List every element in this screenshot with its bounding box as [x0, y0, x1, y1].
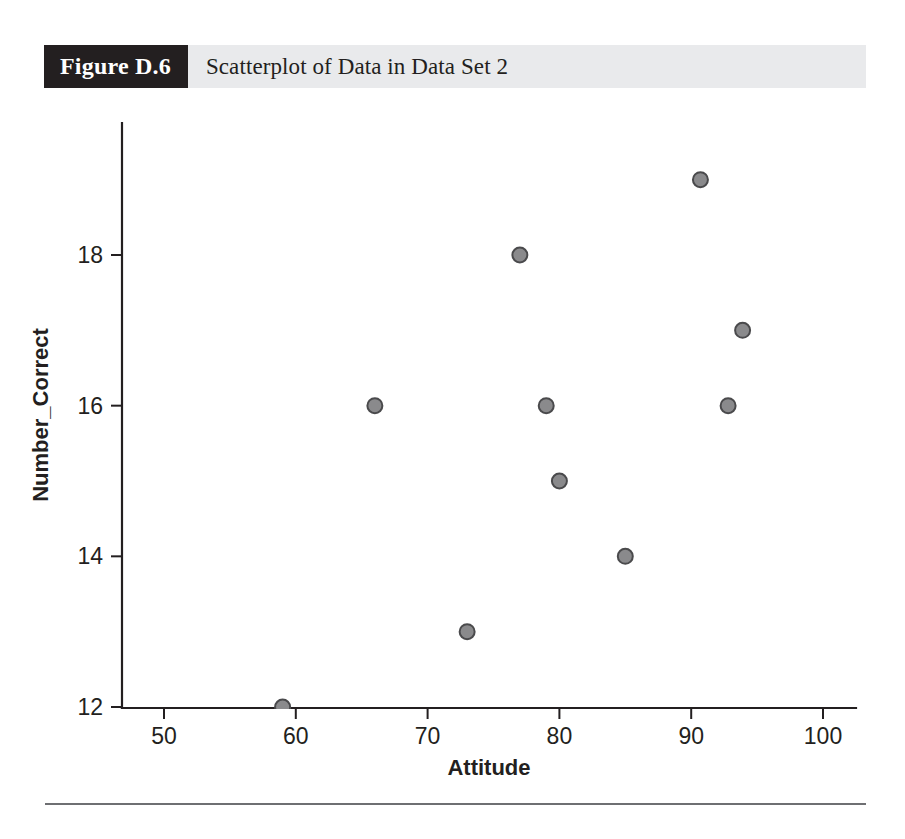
y-tick-label: 16 — [77, 393, 103, 419]
scatter-point — [693, 172, 708, 187]
scatter-point — [552, 474, 567, 489]
x-tick-label: 100 — [804, 723, 842, 749]
y-tick-label: 18 — [77, 242, 103, 268]
footer-divider — [45, 803, 866, 805]
scatterplot-figure: 12141618 5060708090100 Attitude Number_C… — [0, 0, 905, 800]
scatter-point — [618, 549, 633, 564]
x-axis-ticks: 5060708090100 — [151, 708, 842, 749]
scatter-point — [460, 624, 475, 639]
y-axis-ticks: 12141618 — [77, 242, 122, 720]
x-tick-label: 90 — [678, 723, 704, 749]
y-axis-title: Number_Correct — [28, 328, 53, 502]
scatter-point — [275, 700, 290, 715]
y-tick-label: 14 — [77, 543, 103, 569]
x-tick-label: 60 — [283, 723, 309, 749]
x-tick-label: 50 — [151, 723, 177, 749]
x-axis-title: Attitude — [447, 755, 530, 780]
x-tick-label: 70 — [415, 723, 441, 749]
scatter-point — [735, 323, 750, 338]
scatter-point — [539, 398, 554, 413]
scatterplot-canvas: 12141618 5060708090100 Attitude Number_C… — [0, 0, 905, 800]
scatter-point — [512, 248, 527, 263]
scatter-point — [721, 398, 736, 413]
scatter-points-group — [275, 172, 750, 714]
x-tick-label: 80 — [547, 723, 573, 749]
scatter-point — [367, 398, 382, 413]
y-tick-label: 12 — [77, 694, 103, 720]
